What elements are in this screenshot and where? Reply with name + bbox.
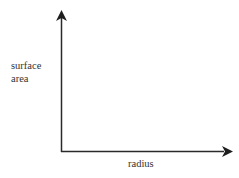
y-axis-label-line2: area — [11, 72, 41, 85]
y-axis-label-line1: surface — [11, 59, 41, 72]
y-axis-label: surface area — [11, 59, 41, 85]
x-axis-label: radius — [128, 157, 154, 170]
axes-diagram — [0, 0, 239, 178]
